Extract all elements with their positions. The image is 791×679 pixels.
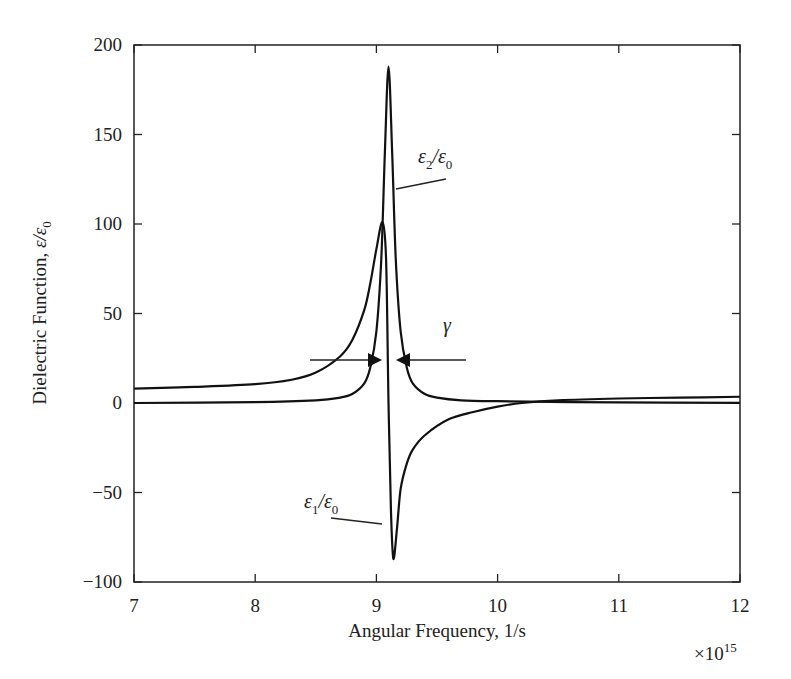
plot-frame (134, 45, 740, 582)
x-tick-label: 7 (129, 595, 139, 616)
y-tick-label: 50 (103, 303, 122, 324)
eps1-curve (134, 222, 740, 559)
eps2-curve (134, 66, 740, 403)
y-tick-label: 200 (94, 34, 123, 55)
y-tick-label: 0 (113, 392, 123, 413)
y-tick-label: −100 (83, 571, 122, 592)
gamma-right-arrowhead-icon (396, 353, 410, 367)
y-tick-label: −50 (92, 482, 122, 503)
y-tick-label: 100 (94, 213, 123, 234)
x-axis-label: Angular Frequency, 1/s (348, 620, 526, 641)
gamma-left-arrowhead-icon (368, 353, 382, 367)
axis-tick-labels: 789101112−100−50050100150200 (83, 34, 750, 616)
axis-ticks (134, 45, 740, 582)
dielectric-function-chart: 789101112−100−50050100150200 ε2/ε0 ε1/ε0… (0, 0, 791, 679)
data-curves (134, 66, 740, 559)
x-tick-label: 10 (488, 595, 507, 616)
annotation-eps2: ε2/ε0 (396, 145, 452, 189)
x-tick-label: 11 (610, 595, 628, 616)
x-axis-multiplier: ×1015 (694, 640, 737, 664)
svg-text:ε1/ε0: ε1/ε0 (304, 490, 338, 517)
eps1-leader-line (331, 518, 382, 524)
y-axis-label: Dielectric Function, ε/ε0 (29, 221, 54, 404)
x-tick-label: 12 (731, 595, 750, 616)
gamma-label: γ (443, 314, 452, 337)
y-tick-label: 150 (94, 124, 123, 145)
annotation-eps1: ε1/ε0 (304, 490, 382, 524)
x-tick-label: 9 (372, 595, 382, 616)
x-tick-label: 8 (250, 595, 260, 616)
svg-text:ε2/ε0: ε2/ε0 (418, 145, 452, 172)
eps2-leader-line (396, 179, 446, 189)
